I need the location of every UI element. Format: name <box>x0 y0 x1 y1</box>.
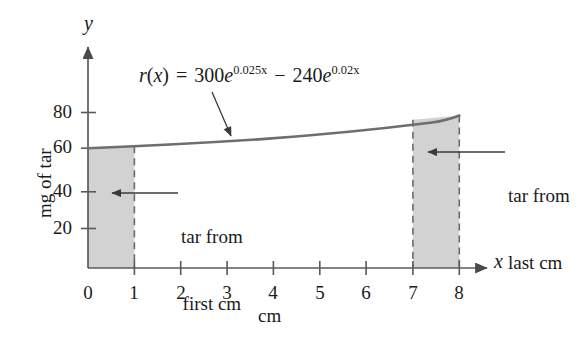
formula-equals: = <box>174 64 189 86</box>
annotation-first-cm: tar from first cm <box>181 181 243 337</box>
formula-coefficient-2: 240 <box>293 64 323 86</box>
x-axis-title: cm <box>258 305 281 326</box>
formula-func-name: r <box>139 64 147 86</box>
x-tick-label-6: 6 <box>351 282 381 303</box>
annotation-first-cm-line1: tar from <box>181 226 243 248</box>
shaded-region-first-cm <box>88 146 134 268</box>
y-axis-name: y <box>84 12 93 34</box>
function-curve <box>88 116 459 149</box>
formula-base-1: e <box>224 64 233 86</box>
y-tick-label-60: 60 <box>38 136 72 157</box>
shaded-region-last-cm <box>413 116 459 269</box>
formula-minus: − <box>272 64 287 86</box>
formula-paren-close: ) <box>162 64 169 86</box>
x-tick-label-1: 1 <box>119 282 149 303</box>
formula-coefficient-1: 300 <box>194 64 224 86</box>
x-axis-name: x <box>494 250 503 272</box>
formula-exponent-1: 0.025x <box>233 63 267 77</box>
function-formula: r(x) = 300e0.025x − 240e0.02x <box>139 64 359 86</box>
annotation-last-cm-line1: tar from <box>508 185 570 207</box>
x-tick-label-8: 8 <box>444 282 474 303</box>
formula-exponent-2: 0.02x <box>331 63 359 77</box>
formula-leader-arrow <box>212 92 231 136</box>
x-tick-label-4: 4 <box>258 282 288 303</box>
annotation-first-cm-line2: first cm <box>181 293 243 315</box>
x-tick-label-0: 0 <box>73 282 103 303</box>
annotation-last-cm-line2: last cm <box>508 252 570 274</box>
x-tick-label-5: 5 <box>305 282 335 303</box>
y-tick-label-40: 40 <box>38 180 72 201</box>
tar-absorption-figure: y x mg of tar cm 20 40 60 80 0 1 2 3 4 5… <box>0 0 579 337</box>
annotation-last-cm: tar from last cm <box>508 140 570 319</box>
x-tick-label-7: 7 <box>398 282 428 303</box>
y-tick-label-20: 20 <box>38 217 72 238</box>
y-tick-label-80: 80 <box>38 101 72 122</box>
